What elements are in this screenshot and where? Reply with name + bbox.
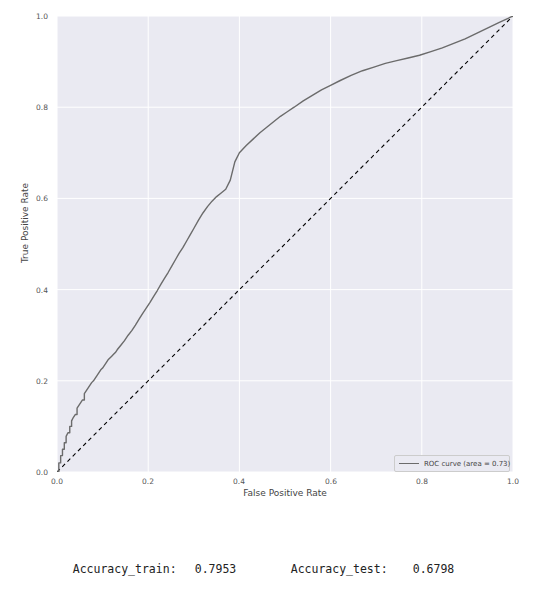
- y-tick-label: 1.0: [22, 12, 48, 21]
- x-tick-label: 0.6: [325, 477, 337, 486]
- metrics-row: Accuracy_train:0.7953Accuracy_test:0.679…: [0, 543, 534, 561]
- metric-key: Accuracy_test:: [291, 561, 413, 579]
- metric-key: Accuracy_train:: [73, 561, 195, 579]
- y-tick-label: 0.0: [22, 468, 48, 477]
- y-tick-label: 0.2: [22, 377, 48, 386]
- x-axis-label: False Positive Rate: [57, 488, 513, 498]
- x-tick-label: 0.4: [233, 477, 245, 486]
- x-tick-label: 0.2: [142, 477, 154, 486]
- x-tick-label: 0.8: [416, 477, 428, 486]
- legend-line-swatch: [399, 463, 419, 464]
- legend-label: ROC curve (area = 0.73): [424, 460, 510, 468]
- roc-curve-figure: 0.0 0.2 0.4 0.6 0.8 1.0 0.0 0.2 0.4 0.6 …: [0, 0, 534, 500]
- x-tick-label: 1.0: [507, 477, 519, 486]
- y-axis-label: True Positive Rate: [20, 108, 30, 338]
- metric-value: 0.6798: [413, 561, 509, 579]
- plot-area: [57, 16, 513, 472]
- chart-legend: ROC curve (area = 0.73): [394, 455, 510, 472]
- x-tick-label: 0.0: [51, 477, 63, 486]
- chance-line: [57, 16, 513, 472]
- metrics-row: Precision_test:0.6233Recall_test:0.4793: [0, 596, 534, 602]
- plot-svg: [57, 16, 513, 472]
- metrics-output: Accuracy_train:0.7953Accuracy_test:0.679…: [0, 508, 534, 602]
- metric-value: 0.7953: [195, 561, 291, 579]
